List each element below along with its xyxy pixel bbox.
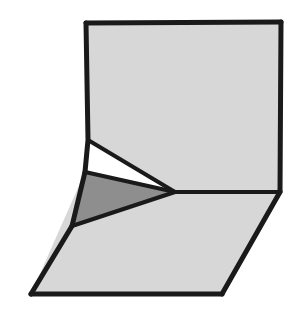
edge-left-upper [85, 23, 88, 172]
folded-surface-figure [0, 0, 305, 329]
edge-right-upper [280, 22, 281, 192]
figure-canvas [0, 0, 305, 329]
edge-top [86, 22, 281, 23]
